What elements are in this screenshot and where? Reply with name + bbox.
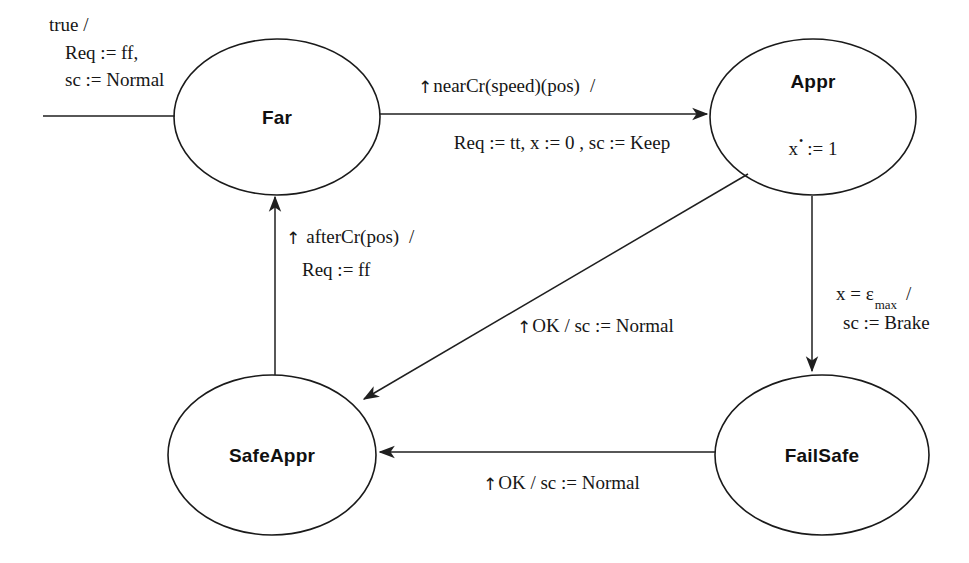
edge-label-far-to-appr-slash: / <box>590 75 595 96</box>
state-flow-appr-var: x <box>789 138 799 159</box>
edge-appr-to-safeappr[interactable] <box>364 174 748 399</box>
edge-label-initial: true / Req := ff, sc := Normal <box>49 11 164 94</box>
state-machine-diagram: Far Appr x•:= 1 SafeAppr FailSafe true /… <box>0 0 969 563</box>
edge-label-far-to-appr-action: Req := tt, x := 0 , sc := Keep <box>454 129 670 157</box>
state-label-failsafe: FailSafe <box>785 445 859 467</box>
edge-label-failsafe-to-safeappr: ↑OK / sc := Normal <box>483 469 640 497</box>
state-label-safeappr: SafeAppr <box>229 445 315 467</box>
edge-label-safeappr-to-far-action: Req := ff <box>302 256 370 284</box>
edge-label-failsafe-to-safeappr-text: OK / sc := Normal <box>498 472 640 493</box>
state-node-appr[interactable] <box>710 39 916 195</box>
edge-label-appr-to-safeappr-text: OK / sc := Normal <box>532 315 674 336</box>
send-event-arrow-icon: ↑ <box>418 77 432 97</box>
edge-label-appr-to-failsafe-slash: / <box>906 283 911 304</box>
send-event-arrow-icon: ↑ <box>483 474 497 494</box>
state-label-far: Far <box>262 107 292 129</box>
edge-label-far-to-appr-event-text: nearCr(speed)(pos) <box>433 75 580 96</box>
send-event-arrow-icon: ↑ <box>517 317 531 337</box>
edge-label-initial-action2: sc := Normal <box>49 66 164 94</box>
derivative-dot-icon: • <box>799 134 803 148</box>
state-flow-appr: x•:= 1 <box>789 136 838 159</box>
state-label-appr: Appr <box>790 71 835 93</box>
edge-label-safeappr-to-far-event-text: afterCr(pos) <box>306 226 399 247</box>
edge-label-far-to-appr-event: ↑nearCr(speed)(pos)/ <box>418 72 595 100</box>
edge-label-initial-guard: true / <box>49 11 164 39</box>
edge-label-safeappr-to-far-event: ↑afterCr(pos)/ <box>286 223 414 251</box>
edge-label-appr-to-failsafe-guard-text: x = ε <box>836 283 874 304</box>
edge-label-appr-to-failsafe-guard: x = εmax/ <box>836 280 911 311</box>
edge-label-appr-to-failsafe-action: sc := Brake <box>843 309 930 337</box>
edge-label-appr-to-safeappr: ↑OK / sc := Normal <box>517 312 674 340</box>
send-event-arrow-icon: ↑ <box>286 228 300 248</box>
edge-label-initial-action1: Req := ff, <box>49 38 164 66</box>
state-flow-appr-assign: := 1 <box>807 138 837 159</box>
edge-label-safeappr-to-far-slash: / <box>409 226 414 247</box>
